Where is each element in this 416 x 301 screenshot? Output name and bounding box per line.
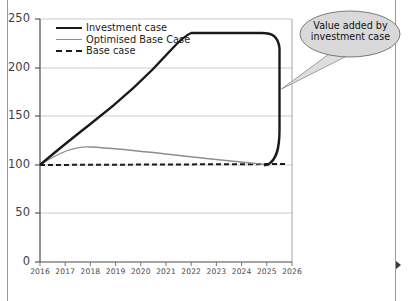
x-tick-label-2025: 2025: [254, 267, 280, 276]
y-tick-label-100: 100: [0, 159, 30, 170]
x-tick-label-2023: 2023: [203, 267, 229, 276]
x-tick-label-2024: 2024: [229, 267, 255, 276]
callout-tail: [282, 54, 348, 89]
series-optimised-base-case: [40, 147, 270, 165]
y-tick-marks: [35, 19, 40, 262]
y-tick-label-200: 200: [0, 62, 30, 73]
x-tick-label-2021: 2021: [153, 267, 179, 276]
legend-swatch-base-case-icon: [56, 45, 82, 56]
y-tick-label-250: 250: [0, 13, 30, 24]
legend-label-optimised-base-case: Optimised Base Case: [86, 34, 190, 46]
callout-line-1: Value added by: [303, 20, 398, 31]
callout-line-2: investment case: [303, 31, 398, 42]
x-tick-label-2022: 2022: [178, 267, 204, 276]
legend-item-investment-case: Investment case: [56, 22, 190, 34]
x-tick-label-2018: 2018: [77, 267, 103, 276]
chart-legend: Investment case Optimised Base Case Base…: [56, 22, 190, 57]
y-tick-label-0: 0: [0, 256, 30, 267]
legend-swatch-investment-case-icon: [56, 22, 82, 33]
legend-item-optimised-base-case: Optimised Base Case: [56, 34, 190, 46]
x-tick-label-2019: 2019: [103, 267, 129, 276]
callout-label: Value added by investment case: [303, 20, 398, 43]
x-tick-label-2020: 2020: [128, 267, 154, 276]
x-tick-label-2017: 2017: [52, 267, 78, 276]
y-tick-label-50: 50: [0, 207, 30, 218]
x-tick-label-2016: 2016: [27, 267, 53, 276]
line-chart: 250 200 150 100 50 0 2016 2017 2018 2019…: [0, 0, 416, 301]
y-tick-label-150: 150: [0, 110, 30, 121]
x-tick-label-2026: 2026: [279, 267, 305, 276]
legend-swatch-optimised-base-case-icon: [56, 34, 82, 45]
legend-label-investment-case: Investment case: [86, 22, 167, 34]
legend-item-base-case: Base case: [56, 45, 190, 57]
chart-page: 250 200 150 100 50 0 2016 2017 2018 2019…: [0, 0, 416, 301]
legend-label-base-case: Base case: [86, 45, 136, 57]
